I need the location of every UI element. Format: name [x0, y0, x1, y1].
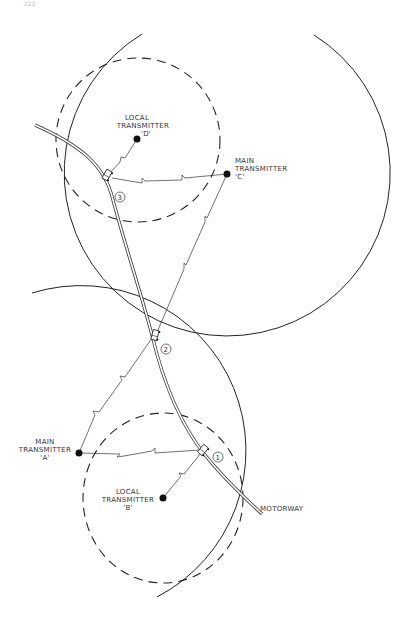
coverage-circle-main-a	[32, 286, 246, 597]
link-b-to-vehicle-1	[163, 453, 201, 498]
label-transmitter-b: LOCAL TRANSMITTER 'B'	[101, 488, 154, 512]
svg-text:TRANSMITTER: TRANSMITTER	[101, 496, 154, 504]
label-transmitter-c: MAIN TRANSMITTER 'C'	[234, 157, 287, 181]
svg-text:2: 2	[164, 346, 169, 354]
position-marker-3: 3	[115, 192, 125, 202]
page-number: 222	[24, 0, 36, 7]
svg-text:'C': 'C'	[235, 173, 245, 181]
link-c-to-vehicle-3	[112, 174, 227, 183]
coverage-circle-main-c	[64, 34, 390, 336]
svg-text:'D': 'D'	[141, 130, 151, 138]
label-transmitter-a: MAIN TRANSMITTER 'A'	[18, 438, 71, 462]
diagram-canvas: 222	[0, 0, 400, 634]
transmitter-a-icon[interactable]	[76, 450, 83, 457]
svg-text:3: 3	[118, 194, 123, 202]
link-a-to-vehicle-2	[79, 338, 152, 453]
svg-text:TRANSMITTER: TRANSMITTER	[18, 446, 71, 454]
transmitter-c-icon[interactable]	[224, 171, 231, 178]
transmitter-b-icon[interactable]	[160, 495, 167, 502]
svg-text:'B': 'B'	[123, 504, 133, 512]
link-a-to-vehicle-1	[79, 448, 200, 457]
svg-text:MAIN: MAIN	[35, 438, 54, 446]
label-motorway: MOTORWAY	[260, 505, 304, 513]
svg-text:LOCAL: LOCAL	[116, 488, 140, 496]
link-d-to-vehicle-3	[110, 139, 137, 173]
link-c-to-vehicle-2	[158, 174, 227, 330]
svg-text:'A': 'A'	[40, 454, 50, 462]
label-transmitter-d: LOCAL TRANSMITTER 'D'	[116, 114, 169, 138]
transmitter-d-icon[interactable]	[134, 136, 141, 143]
motorway-road	[35, 125, 262, 514]
svg-text:LOCAL: LOCAL	[125, 114, 149, 122]
position-marker-2: 2	[161, 344, 171, 354]
svg-text:TRANSMITTER: TRANSMITTER	[116, 122, 169, 130]
svg-text:TRANSMITTER: TRANSMITTER	[234, 165, 287, 173]
svg-text:MAIN: MAIN	[235, 157, 254, 165]
svg-text:1: 1	[216, 454, 221, 462]
position-marker-1: 1	[213, 452, 223, 462]
coverage-diagram: 222	[0, 0, 400, 634]
